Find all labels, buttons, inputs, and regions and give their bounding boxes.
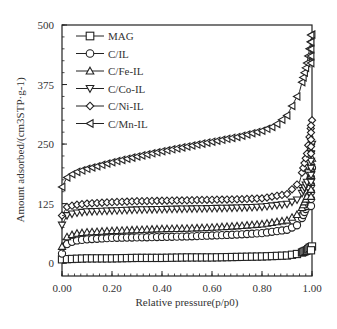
legend-item: C/IL (76, 48, 129, 60)
legend-item: MAG (76, 30, 134, 42)
legend-item: C/Co-IL (76, 83, 146, 95)
legend-label: C/Mn-IL (108, 118, 148, 130)
x-tick-label: 0.20 (102, 282, 122, 294)
x-tick-label: 0.80 (252, 282, 272, 294)
y-tick-label: 250 (38, 138, 55, 150)
legend-label: C/Co-IL (108, 83, 146, 95)
legend-label: C/Ni-IL (108, 100, 144, 112)
y-tick-label: 125 (38, 198, 55, 210)
legend-item: C/Ni-IL (76, 100, 144, 112)
series-c-mn-il (58, 31, 314, 191)
x-tick-label: 0.60 (202, 282, 222, 294)
x-axis-label: Relative pressure(p/p0) (136, 296, 239, 309)
isotherm-chart: 0.000.200.400.600.801.000125250375500 MA… (0, 0, 337, 329)
legend-label: C/IL (108, 48, 129, 60)
x-tick-label: 0.40 (152, 282, 172, 294)
legend-item: C/Fe-IL (76, 65, 144, 77)
legend-label: MAG (108, 30, 134, 42)
legend: MAGC/ILC/Fe-ILC/Co-ILC/Ni-ILC/Mn-IL (76, 30, 148, 130)
series-layer (58, 31, 315, 263)
y-axis-label: Amount adsorbed/(cm3STP·g-1) (14, 77, 27, 222)
y-tick-label: 0 (49, 257, 55, 269)
legend-item: C/Mn-IL (76, 118, 148, 130)
series-c-co-il (58, 141, 315, 228)
x-tick-label: 0.00 (52, 282, 72, 294)
x-tick-label: 1.00 (302, 282, 322, 294)
y-tick-label: 375 (38, 79, 55, 91)
series-mag (58, 243, 315, 263)
y-tick-label: 500 (38, 19, 55, 31)
legend-label: C/Fe-IL (108, 65, 144, 77)
